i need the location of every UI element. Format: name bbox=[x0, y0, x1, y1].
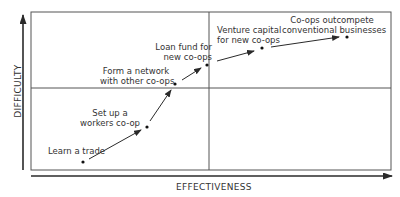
label-line: Set up a bbox=[80, 108, 140, 118]
arrow-network-to-loan bbox=[182, 68, 201, 80]
label-venture-capital: Venture capital for new co-ops bbox=[217, 25, 281, 45]
label-set-up-co-op: Set up a workers co-op bbox=[80, 108, 140, 128]
point-learn-a-trade bbox=[81, 160, 84, 163]
label-line: Loan fund for bbox=[152, 42, 212, 52]
arrow-loan-to-venture bbox=[217, 51, 254, 61]
label-line: Learn a trade bbox=[48, 146, 105, 156]
label-line: workers co-op bbox=[80, 118, 140, 128]
label-line: Co-ops outcompete bbox=[282, 15, 382, 25]
point-set-up-co-op bbox=[145, 125, 148, 128]
label-loan-fund: Loan fund for new co-ops bbox=[152, 42, 212, 62]
label-co-ops-outcompete: Co-ops outcompete conventional businesse… bbox=[282, 15, 382, 35]
label-line: with other co-ops bbox=[100, 76, 172, 86]
label-line: conventional businesses bbox=[282, 25, 382, 35]
label-line: new co-ops bbox=[152, 52, 212, 62]
y-axis-label: DIFFICULTY bbox=[13, 56, 23, 126]
label-line: Venture capital bbox=[217, 25, 281, 35]
label-form-network: Form a network with other co-ops bbox=[100, 66, 172, 86]
point-co-ops-outcompete bbox=[345, 35, 348, 38]
label-learn-a-trade: Learn a trade bbox=[48, 146, 105, 156]
label-line: Form a network bbox=[100, 66, 172, 76]
point-loan-fund bbox=[205, 63, 208, 66]
arrow-setup-to-network bbox=[150, 90, 171, 121]
x-axis-label: EFFECTIVENESS bbox=[176, 182, 252, 192]
point-venture-capital bbox=[260, 46, 263, 49]
label-line: for new co-ops bbox=[217, 35, 281, 45]
